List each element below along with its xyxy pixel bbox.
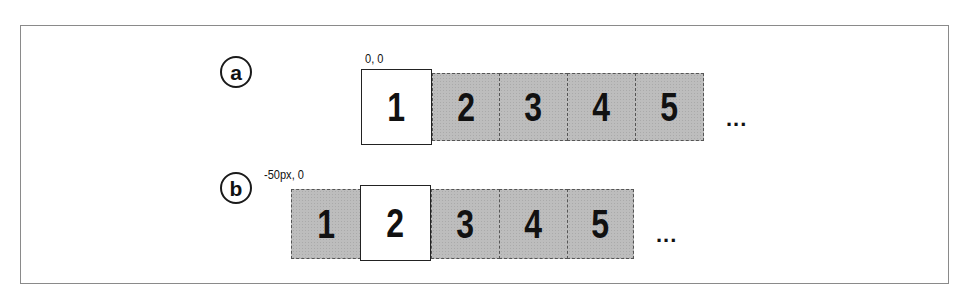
row-b-cell-1: 1 bbox=[291, 189, 361, 259]
row-b-cell-3: 3 bbox=[431, 189, 500, 259]
row-b-label: b bbox=[230, 178, 243, 199]
row-b-coordinate: -50px, 0 bbox=[264, 167, 304, 182]
row-b-cell-5: 5 bbox=[567, 189, 634, 259]
row-a-cell-5: 5 bbox=[635, 73, 704, 141]
row-a-cell-3: 3 bbox=[499, 73, 568, 141]
row-a-label: a bbox=[230, 62, 242, 83]
row-a-ellipsis: ... bbox=[726, 108, 747, 130]
row-b-ellipsis: ... bbox=[656, 224, 677, 246]
row-b-label-badge: b bbox=[220, 172, 252, 204]
row-a-cell-2: 2 bbox=[432, 73, 500, 141]
row-b-cell-4: 4 bbox=[499, 189, 568, 259]
row-a-label-badge: a bbox=[220, 56, 252, 88]
row-b-cell-2: 2 bbox=[360, 185, 431, 261]
row-a-cell-4: 4 bbox=[567, 73, 636, 141]
row-a-coordinate: 0, 0 bbox=[365, 51, 383, 66]
row-a-cell-1: 1 bbox=[361, 69, 432, 145]
